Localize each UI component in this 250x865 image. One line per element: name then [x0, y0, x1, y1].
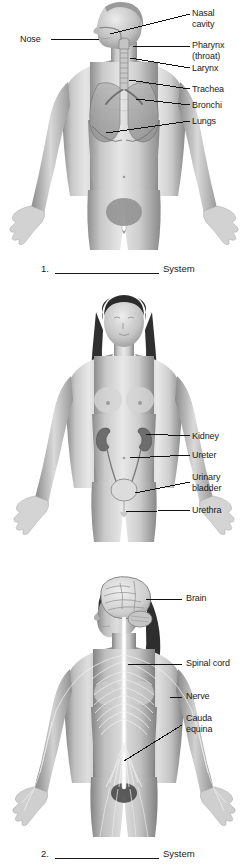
label-urinary-bladder-line2: bladder [192, 483, 221, 494]
label-bronchi: Bronchi [192, 100, 222, 111]
label-nasal-cavity-line1: Nasal [192, 8, 215, 19]
figure-male-respiratory: Nose Nasal cavity Pharynx (throat) Laryn… [0, 0, 250, 255]
label-urinary-bladder-line1: Urinary [192, 472, 221, 483]
panel-respiratory-system: Nose Nasal cavity Pharynx (throat) Laryn… [0, 0, 250, 290]
anatomy-worksheet: Nose Nasal cavity Pharynx (throat) Laryn… [0, 0, 250, 865]
label-kidney: Kidney [192, 431, 219, 442]
label-urinary-bladder: Urinary bladder [192, 472, 221, 493]
label-nasal-cavity: Nasal cavity [192, 8, 215, 29]
panel-urinary-system: Kidney Ureter Urinary bladder Urethra 2.… [0, 290, 250, 575]
figure-female-nervous: Brain Spinal cord Nerve Cauda equina [0, 575, 250, 840]
label-cauda-equina: Cauda equina [186, 713, 212, 734]
label-pharynx-line1: Pharynx [192, 40, 224, 51]
label-pharynx-line2: (throat) [192, 51, 224, 62]
answer-row-1: 1. System [0, 261, 250, 277]
answer-number-1: 1. [41, 263, 49, 274]
label-urethra: Urethra [192, 505, 221, 516]
answer-word-1: System [163, 263, 195, 274]
label-brain: Brain [186, 593, 207, 604]
panel-nervous-system: Brain Spinal cord Nerve Cauda equina 3. … [0, 575, 250, 865]
leader-lines-nervous [0, 575, 250, 840]
label-spinal-cord: Spinal cord [186, 658, 230, 669]
label-ureter: Ureter [192, 450, 216, 461]
label-nose: Nose [20, 34, 41, 45]
label-lungs: Lungs [192, 116, 216, 127]
label-nasal-cavity-line2: cavity [192, 19, 215, 30]
label-cauda-equina-line2: equina [186, 724, 212, 735]
label-trachea: Trachea [192, 84, 224, 95]
label-pharynx: Pharynx (throat) [192, 40, 224, 61]
label-nerve: Nerve [186, 691, 210, 702]
figure-female-urinary: Kidney Ureter Urinary bladder Urethra [0, 290, 250, 545]
answer-blank-1[interactable] [55, 273, 159, 274]
label-larynx: Larynx [192, 63, 218, 74]
label-cauda-equina-line1: Cauda [186, 713, 212, 724]
